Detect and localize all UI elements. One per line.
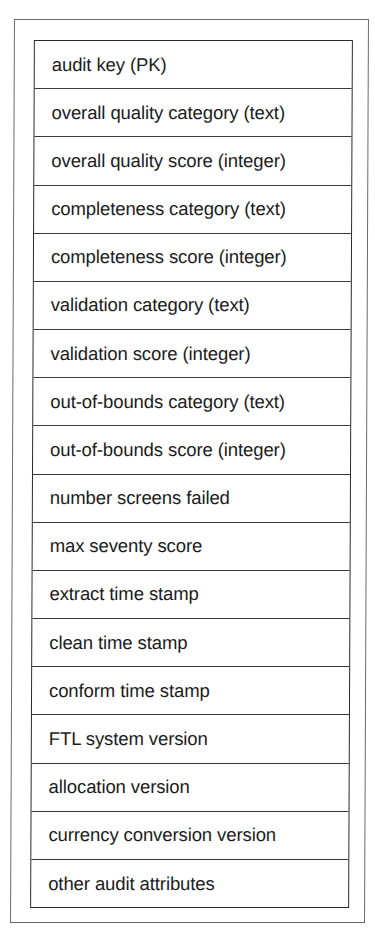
attribute-label: overall quality score (integer) — [51, 150, 286, 172]
attribute-label: other audit attributes — [48, 873, 215, 895]
table-row-extract-time-stamp: extract time stamp — [32, 570, 349, 618]
attribute-label: allocation version — [49, 776, 190, 798]
table-row-completeness-score: completeness score (integer) — [34, 233, 351, 281]
attribute-label: number screens failed — [50, 487, 230, 509]
attribute-label: out-of-bounds category (text) — [50, 391, 285, 413]
attribute-label: completeness category (text) — [51, 198, 286, 220]
attribute-label: currency conversion version — [48, 824, 276, 846]
attribute-label: max seventy score — [50, 535, 203, 557]
table-row-ftl-system-version: FTL system version — [32, 714, 349, 762]
table-row-overall-quality-category: overall quality category (text) — [34, 88, 351, 136]
table-row-validation-score: validation score (integer) — [33, 329, 350, 377]
attribute-label: extract time stamp — [49, 583, 198, 605]
audit-dimension-table: audit key (PK) overall quality category … — [30, 40, 353, 908]
attribute-label: validation category (text) — [51, 294, 250, 316]
table-row-allocation-version: allocation version — [32, 763, 349, 811]
table-row-out-of-bounds-score: out-of-bounds score (integer) — [33, 425, 350, 473]
attribute-label: conform time stamp — [49, 680, 210, 702]
table-row-audit-key: audit key (PK) — [35, 41, 352, 88]
table-row-other-audit-attributes: other audit attributes — [31, 859, 348, 907]
table-row-validation-category: validation category (text) — [34, 281, 351, 329]
attribute-label: completeness score (integer) — [51, 246, 287, 268]
attribute-label: validation score (integer) — [50, 343, 250, 365]
attribute-label: FTL system version — [49, 728, 208, 750]
table-row-number-screens-failed: number screens failed — [33, 474, 350, 522]
table-row-out-of-bounds-category: out-of-bounds category (text) — [33, 377, 350, 425]
attribute-label: out-of-bounds score (integer) — [50, 439, 286, 461]
attribute-label: clean time stamp — [49, 632, 187, 654]
table-row-overall-quality-score: overall quality score (integer) — [34, 136, 351, 184]
table-row-currency-conversion-version: currency conversion version — [31, 811, 348, 859]
table-row-max-severity-score: max seventy score — [33, 522, 350, 570]
table-row-clean-time-stamp: clean time stamp — [32, 618, 349, 666]
attribute-label: overall quality category (text) — [52, 102, 285, 124]
attribute-label: audit key (PK) — [52, 54, 167, 76]
table-row-conform-time-stamp: conform time stamp — [32, 666, 349, 714]
table-row-completeness-category: completeness category (text) — [34, 185, 351, 233]
